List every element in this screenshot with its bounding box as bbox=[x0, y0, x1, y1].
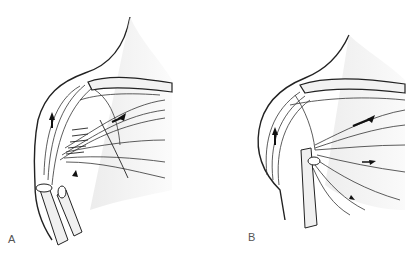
panel-label-a: A bbox=[8, 233, 15, 245]
panel-a: A bbox=[0, 0, 205, 255]
panel-label-b: B bbox=[248, 231, 255, 243]
anatomy-illustration-b bbox=[205, 0, 410, 255]
anatomy-illustration-a bbox=[0, 0, 205, 255]
panel-b: B bbox=[205, 0, 410, 255]
